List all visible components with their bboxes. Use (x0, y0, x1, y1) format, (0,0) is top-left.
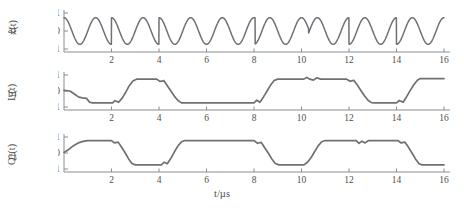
svg-text:4: 4 (157, 175, 162, 185)
svg-text:1: 1 (58, 8, 60, 18)
svg-text:6: 6 (204, 175, 209, 185)
panel-b-ylabel: I1(t) (6, 69, 19, 115)
panel-c-ylabel-tail: (t) (6, 144, 17, 154)
svg-text:12: 12 (344, 113, 354, 123)
panel-b-ylabel-sub: 1 (9, 94, 18, 98)
svg-text:10: 10 (297, 175, 307, 185)
panel-c-ylabel-sub: 1 (9, 154, 18, 158)
svg-text:6: 6 (204, 113, 209, 123)
svg-text:0: 0 (58, 86, 60, 96)
panel-b: b) I1(t) 10-1 246810121416 (0, 64, 464, 128)
panel-a: a) x(t) 10-1 246810121416 (0, 0, 464, 66)
panel-c: c) Q1(t) 10-1 246810121416 (0, 126, 464, 208)
panel-a-trace (64, 18, 444, 45)
svg-text:4: 4 (157, 113, 162, 123)
panel-b-ylabel-tail: (t) (6, 84, 17, 94)
svg-text:0: 0 (58, 26, 60, 36)
panel-c-ylabel-main: Q (6, 157, 17, 165)
svg-text:8: 8 (252, 113, 257, 123)
svg-text:10: 10 (297, 113, 307, 123)
svg-text:1: 1 (58, 70, 60, 80)
panel-c-svg: 10-1 246810121416 (58, 126, 456, 190)
svg-text:8: 8 (252, 175, 257, 185)
svg-text:-1: -1 (58, 164, 60, 174)
panel-b-plot: 10-1 246810121416 (58, 64, 456, 128)
panel-b-axes (64, 72, 450, 110)
svg-text:1: 1 (58, 132, 60, 142)
svg-text:-1: -1 (58, 44, 60, 54)
panel-a-plot: 10-1 246810121416 (58, 0, 456, 66)
svg-text:14: 14 (392, 113, 402, 123)
svg-text:16: 16 (439, 113, 449, 123)
panel-b-svg: 10-1 246810121416 (58, 64, 456, 128)
panel-b-ylabel-main: I (6, 98, 17, 102)
panel-a-svg: 10-1 246810121416 (58, 0, 456, 66)
panel-c-plot: 10-1 246810121416 (58, 126, 456, 208)
panel-a-axes (64, 10, 450, 52)
panel-b-trace (64, 77, 444, 102)
svg-text:-1: -1 (58, 102, 60, 112)
panel-a-ylabel: x(t) (7, 5, 18, 51)
signal-figure: a) x(t) 10-1 246810121416 b) I1(t) (0, 0, 464, 208)
x-axis-label: t/µs (214, 188, 230, 199)
panel-c-ylabel: Q1(t) (6, 131, 19, 177)
panel-c-axes (64, 134, 450, 172)
svg-text:12: 12 (344, 175, 354, 185)
svg-text:16: 16 (439, 175, 449, 185)
svg-text:0: 0 (58, 148, 60, 158)
svg-text:14: 14 (392, 175, 402, 185)
svg-text:2: 2 (109, 113, 114, 123)
svg-text:2: 2 (109, 175, 114, 185)
panel-c-trace (64, 141, 444, 165)
